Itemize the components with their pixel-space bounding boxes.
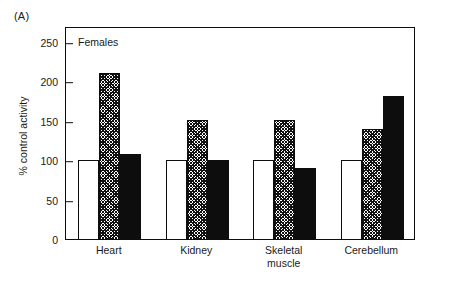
plot-area [66,28,414,239]
bar-solid [208,160,229,239]
y-tick-label: 150 [24,116,58,127]
x-category-label: Cerebellum [344,244,398,257]
bar-solid [383,96,404,239]
x-category-label: Heart [96,244,122,257]
bar-group [241,28,329,239]
y-axis-tick-mark [66,122,73,123]
y-tick-label: 200 [24,77,58,88]
y-tick-label: 50 [24,195,58,206]
bar-hatched [362,129,383,239]
bar-open [166,160,187,239]
bar-group [329,28,417,239]
panel-letter: (A) [14,10,29,22]
y-axis-tick-mark [66,43,73,44]
bar-hatched [274,120,295,239]
x-category-label: Kidney [180,244,212,257]
y-tick-label: 0 [24,235,58,246]
bar-group [66,28,154,239]
plot-frame: Females [65,27,415,240]
bar-hatched [99,73,120,239]
bar-open [78,160,99,239]
x-category-label: Skeletal muscle [265,244,302,269]
y-axis-tick-mark [66,161,73,162]
bar-solid [295,168,316,239]
bar-open [253,160,274,239]
x-axis-category-labels: HeartKidneySkeletal muscleCerebellum [65,244,415,284]
bar-open [341,160,362,239]
bar-group [154,28,242,239]
y-axis-tick-mark [66,82,73,83]
y-axis-tick-labels: 050100150200250 [24,27,58,240]
y-axis-tick-mark [66,201,73,202]
y-tick-label: 100 [24,156,58,167]
bar-hatched [187,120,208,239]
bar-solid [120,154,141,239]
y-tick-label: 250 [24,38,58,49]
